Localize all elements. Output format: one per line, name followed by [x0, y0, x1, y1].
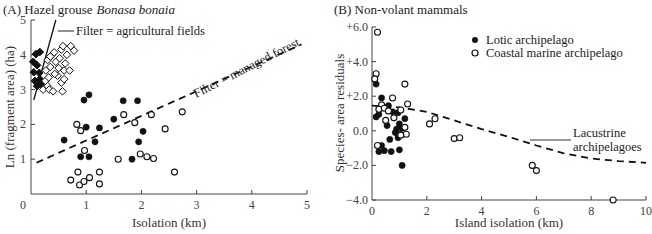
- panel-a-lines: [34, 20, 302, 163]
- panel-a-y-tick-label: 3: [20, 83, 26, 97]
- panel-a-points: [29, 42, 185, 188]
- data-point-circle-open: [398, 107, 404, 113]
- data-point-circle-open: [427, 121, 433, 127]
- panel-a-x-tick-label: 4: [249, 198, 255, 212]
- data-point-circle-open: [115, 156, 121, 162]
- legend-marker-lotic: [472, 37, 478, 43]
- legend-label-lotic: Lotic archipelago: [486, 33, 574, 47]
- panel-a-x-tick-label: 2: [138, 198, 144, 212]
- data-point-circle-filled: [399, 162, 405, 168]
- panel-a-x-tick-label: 5: [304, 198, 310, 212]
- panel-b-x-tick-label: 2: [424, 204, 430, 218]
- data-point-circle-filled: [86, 154, 92, 160]
- figure: (A) Hazel grouseBonasa bonaia 0123451234…: [0, 0, 652, 234]
- data-point-circle-filled: [61, 137, 67, 143]
- data-point-diamond-open: [66, 67, 74, 75]
- data-point-circle-open: [610, 197, 616, 203]
- panel-a-annotation-managed-forest: Filter = managed forest: [191, 35, 302, 101]
- data-point-circle-open: [121, 112, 127, 118]
- data-point-circle-open: [144, 154, 150, 160]
- legend-label-coastal: Coastal marine archipelago: [486, 46, 623, 60]
- data-point-circle-filled: [387, 136, 393, 142]
- data-point-circle-open: [151, 156, 157, 162]
- panel-b-y-tick-label: −4.0: [346, 193, 368, 207]
- data-point-circle-open: [385, 108, 391, 114]
- panel-b-x-tick-label: 8: [588, 204, 594, 218]
- data-point-circle-filled: [81, 97, 87, 103]
- data-point-circle-open: [374, 29, 380, 35]
- panel-b-y-tick-label: +6.0: [346, 20, 368, 34]
- panel-a-y-tick-label: 4: [20, 48, 26, 62]
- data-point-circle-filled: [396, 147, 402, 153]
- data-point-circle-open: [132, 120, 138, 126]
- data-point-circle-open: [432, 116, 438, 122]
- panel-a-x-axis-label: Isolation (km): [132, 215, 206, 230]
- data-point-circle-filled: [376, 148, 382, 154]
- panel-a-y-tick-label: 5: [20, 13, 26, 27]
- data-point-circle-open: [457, 135, 463, 141]
- data-point-circle-open: [75, 169, 81, 175]
- data-point-circle-filled: [140, 128, 146, 134]
- data-point-circle-filled: [378, 95, 384, 101]
- data-point-diamond-open: [59, 88, 67, 96]
- panel-b-y-tick-label: +2.0: [346, 89, 368, 103]
- panel-a-title: (A) Hazel grouseBonasa bonaia: [3, 2, 175, 17]
- data-point-circle-filled: [83, 124, 89, 130]
- panel-b: (B) Non-volant mammals 0246810+6.0+4.0+2…: [332, 2, 652, 230]
- data-point-circle-filled: [373, 114, 379, 120]
- data-point-circle-open: [81, 178, 87, 184]
- data-point-circle-open: [137, 151, 143, 157]
- data-point-circle-open: [82, 148, 88, 154]
- data-point-circle-open: [383, 117, 389, 123]
- panel-a-x-tick-label: 0: [20, 198, 26, 212]
- data-point-circle-open: [533, 168, 539, 174]
- panel-b-x-axis-label: Island isolation (km): [455, 215, 563, 230]
- data-point-circle-filled: [111, 116, 117, 122]
- data-point-circle-open: [372, 76, 378, 82]
- data-point-circle-open: [96, 181, 102, 187]
- data-point-circle-open: [398, 132, 404, 138]
- data-point-circle-open: [78, 128, 84, 134]
- panel-b-x-tick-label: 0: [369, 204, 375, 218]
- data-point-circle-open: [529, 162, 535, 168]
- panel-b-y-tick-label: +4.0: [346, 55, 368, 69]
- legend-marker-coastal: [472, 50, 478, 56]
- data-point-circle-filled: [78, 154, 84, 160]
- data-point-circle-open: [391, 115, 397, 121]
- data-point-circle-open: [405, 101, 411, 107]
- data-point-circle-open: [74, 121, 80, 127]
- data-point-circle-open: [179, 109, 185, 115]
- data-point-diamond-open: [63, 51, 71, 59]
- data-point-circle-open: [402, 81, 408, 87]
- panel-a-annotation-agricultural: Filter = agricultural fields: [76, 24, 205, 38]
- data-point-circle-open: [96, 169, 102, 175]
- data-point-circle-open: [172, 169, 178, 175]
- panel-a: (A) Hazel grouseBonasa bonaia 0123451234…: [2, 2, 310, 230]
- data-point-circle-filled: [86, 92, 92, 98]
- panel-a-title-text: (A) Hazel grouse: [3, 2, 93, 17]
- data-point-circle-filled: [129, 156, 135, 162]
- panel-a-x-tick-label: 3: [194, 198, 200, 212]
- panel-b-annotation-line1: Lacustrine: [573, 126, 626, 140]
- panel-b-y-tick-label: 0.0: [353, 124, 368, 138]
- data-point-circle-filled: [394, 126, 400, 132]
- data-point-circle-open: [402, 124, 408, 130]
- data-point-circle-filled: [134, 98, 140, 104]
- data-point-circle-open: [390, 95, 396, 101]
- panel-b-x-tick-label: 10: [640, 204, 652, 218]
- data-point-circle-filled: [381, 148, 387, 154]
- data-point-circle-open: [87, 175, 93, 181]
- data-point-circle-filled: [388, 148, 394, 154]
- data-point-circle-filled: [402, 116, 408, 122]
- panel-b-title: (B) Non-volant mammals: [334, 2, 468, 17]
- panel-a-x-tick-label: 1: [83, 198, 89, 212]
- panel-a-y-axis-label: Ln (fragment area) (ha): [2, 46, 17, 168]
- data-point-circle-open: [162, 126, 168, 132]
- panel-a-title-species: Bonasa bonaia: [97, 2, 176, 17]
- data-point-circle-filled: [92, 139, 98, 145]
- panel-b-annotation-line2: archipelagoes: [573, 140, 642, 154]
- data-point-circle-open: [148, 112, 154, 118]
- data-point-diamond-open: [61, 60, 69, 68]
- panel-b-y-axis-label: Species- area residuals: [332, 54, 347, 172]
- data-point-circle-open: [68, 177, 74, 183]
